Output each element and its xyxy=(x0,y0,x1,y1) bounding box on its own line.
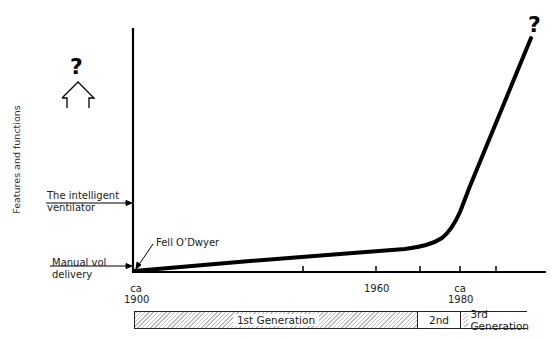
tick-label-line: ca xyxy=(448,283,472,294)
label-intelligent-ventilator: The intelligent ventilator xyxy=(47,190,119,214)
tick-label-line: 1980 xyxy=(448,294,472,305)
label-line: Manual vol xyxy=(52,257,106,269)
question-mark-top: ? xyxy=(528,12,541,37)
generation-first-label: 1st Generation xyxy=(233,314,319,326)
generation-bar: 1st Generation 2nd 3rd Generation xyxy=(134,311,527,329)
label-line: The intelligent xyxy=(47,190,119,202)
label-line: delivery xyxy=(52,269,106,281)
question-mark-left: ? xyxy=(70,54,83,79)
tick-label-1900: ca 1900 xyxy=(124,283,148,305)
tick-label-line: ca xyxy=(124,283,148,294)
tick-label-1980: ca 1980 xyxy=(448,283,472,305)
up-arrow-icon xyxy=(62,82,94,108)
generation-third: 3rd Generation xyxy=(461,312,529,328)
generation-third-label: 3rd Generation xyxy=(470,308,529,332)
label-line: ventilator xyxy=(47,202,119,214)
label-fell-odwyer: Fell O’Dwyer xyxy=(156,237,219,249)
generation-first: 1st Generation xyxy=(135,312,418,328)
generation-second-label: 2nd xyxy=(429,314,449,326)
generation-second: 2nd xyxy=(418,312,461,328)
hatch-pattern xyxy=(463,313,468,327)
tick-label-line: 1900 xyxy=(124,294,148,305)
chart-canvas xyxy=(0,0,560,338)
label-manual-vol-delivery: Manual vol delivery xyxy=(52,257,106,281)
tick-label-1960: 1960 xyxy=(364,283,388,294)
